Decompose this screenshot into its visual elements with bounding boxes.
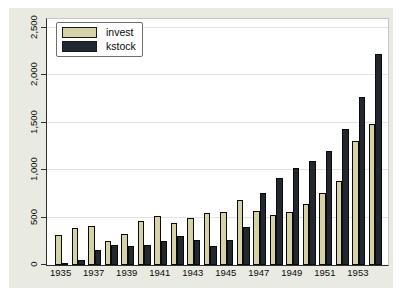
y-tick-2500 (41, 27, 46, 28)
y-tick-label-1000: 1,000 (28, 157, 39, 181)
bar-kstock-1936 (78, 260, 85, 265)
plot-area: invest kstock (46, 18, 389, 266)
y-tick-label-0: 0 (28, 261, 39, 266)
bar-kstock-1950 (309, 161, 316, 265)
bar-invest-1948 (270, 215, 277, 265)
x-tick-label-1945: 1945 (215, 267, 236, 278)
x-label-slot-1946 (236, 267, 249, 278)
bar-kstock-1948 (276, 178, 283, 265)
bar-kstock-1941 (161, 241, 168, 265)
x-label-slot-1938 (104, 267, 117, 278)
bar-kstock-1938 (111, 245, 118, 265)
x-label-slot-1953: 1953 (351, 267, 364, 278)
bar-invest-1941 (154, 216, 161, 265)
bar-group-1943 (187, 218, 200, 265)
graph-canvas: invest kstock 05001,0001,5002,0002,500 1… (9, 8, 393, 288)
bar-kstock-1949 (293, 168, 300, 265)
invest-swatch-icon (62, 27, 97, 38)
bar-group-1942 (171, 223, 184, 265)
x-label-slot-1952 (335, 267, 348, 278)
bar-invest-1950 (303, 204, 310, 265)
bar-group-1937 (88, 226, 101, 265)
y-tick-1500 (41, 122, 46, 123)
bar-group-1953 (352, 97, 365, 265)
bar-kstock-1939 (128, 246, 135, 265)
bar-invest-1942 (171, 223, 178, 265)
x-tick-label-1941: 1941 (149, 267, 170, 278)
bar-kstock-1935 (62, 263, 69, 265)
legend-label-kstock: kstock (106, 41, 136, 52)
x-label-slot-1949: 1949 (285, 267, 298, 278)
bar-kstock-1953 (359, 97, 366, 265)
x-label-slot-1944 (203, 267, 216, 278)
bar-invest-1937 (88, 226, 95, 265)
x-label-slot-1936 (71, 267, 84, 278)
bar-kstock-1946 (243, 227, 250, 265)
bar-kstock-1945 (227, 240, 234, 265)
x-tick-label-1939: 1939 (116, 267, 137, 278)
bar-invest-1938 (105, 241, 112, 265)
bar-invest-1939 (121, 234, 128, 265)
x-label-slot-1940 (137, 267, 150, 278)
bar-group-1950 (303, 161, 316, 265)
bar-invest-1936 (72, 228, 79, 265)
bar-group-1936 (72, 228, 85, 265)
bar-invest-1949 (286, 212, 293, 265)
y-tick-1000 (41, 169, 46, 170)
x-label-slot-1943: 1943 (186, 267, 199, 278)
x-tick-label-1949: 1949 (281, 267, 302, 278)
bar-invest-1940 (138, 221, 145, 265)
bar-kstock-1940 (144, 245, 151, 265)
bar-group-1947 (253, 193, 266, 265)
bar-invest-1944 (204, 213, 211, 265)
y-tick-label-500: 500 (28, 209, 39, 225)
y-tick-label-1500: 1,500 (28, 110, 39, 134)
y-tick-0 (41, 264, 46, 265)
bar-invest-1935 (55, 235, 62, 265)
bar-group-1941 (154, 216, 167, 265)
x-label-slot-1942 (170, 267, 183, 278)
bar-invest-1953 (352, 141, 359, 265)
bar-kstock-1947 (260, 193, 267, 265)
x-label-slot-1937: 1937 (87, 267, 100, 278)
bar-group-1946 (237, 200, 250, 265)
bar-kstock-1937 (95, 250, 102, 265)
kstock-swatch-icon (62, 41, 97, 52)
bar-group-1949 (286, 168, 299, 265)
bar-kstock-1944 (210, 246, 217, 265)
x-label-slot-1950 (302, 267, 315, 278)
legend: invest kstock (56, 22, 143, 57)
bar-group-1948 (270, 178, 283, 265)
bar-group-1939 (121, 234, 134, 265)
bar-kstock-1951 (326, 151, 333, 265)
y-tick-2000 (41, 74, 46, 75)
x-label-slot-1945: 1945 (219, 267, 232, 278)
legend-item-invest: invest (62, 27, 136, 38)
legend-label-invest: invest (106, 27, 133, 38)
y-tick-500 (41, 217, 46, 218)
x-axis-labels: 1935193719391941194319451947194919511953 (54, 267, 381, 278)
x-tick-label-1947: 1947 (248, 267, 269, 278)
bar-group-1952 (336, 129, 349, 265)
x-tick-label-1951: 1951 (314, 267, 335, 278)
bar-invest-1952 (336, 181, 343, 265)
bar-group-1938 (105, 241, 118, 265)
bar-invest-1947 (253, 211, 260, 265)
bar-invest-1954 (369, 124, 376, 265)
bar-group-1951 (319, 151, 332, 265)
legend-item-kstock: kstock (62, 41, 136, 52)
bar-kstock-1943 (194, 240, 201, 265)
y-tick-label-2500: 2,500 (28, 15, 39, 39)
x-label-slot-1947: 1947 (252, 267, 265, 278)
x-tick-label-1935: 1935 (50, 267, 71, 278)
x-label-slot-1941: 1941 (153, 267, 166, 278)
bar-kstock-1954 (375, 54, 382, 265)
bar-group-1935 (55, 235, 68, 265)
x-label-slot-1951: 1951 (318, 267, 331, 278)
x-label-slot-1935: 1935 (54, 267, 67, 278)
bar-group-1944 (204, 213, 217, 265)
x-tick-label-1937: 1937 (83, 267, 104, 278)
bar-invest-1951 (319, 193, 326, 265)
bar-kstock-1952 (342, 129, 349, 265)
bar-invest-1943 (187, 218, 194, 265)
